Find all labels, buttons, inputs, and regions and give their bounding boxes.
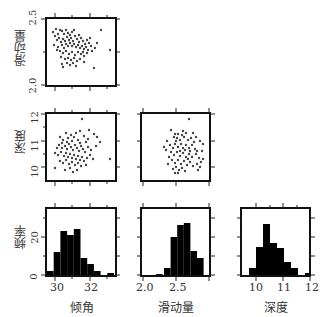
xtick-label: 2.5 (169, 281, 187, 294)
xtick-label: 11 (277, 281, 291, 294)
scatter-points-dip-depth (54, 118, 111, 173)
column-label-slip: 滑动量 (158, 298, 194, 315)
xtick-label: 2.0 (136, 281, 154, 294)
histogram-slip (156, 223, 204, 275)
xtick-label: 12 (305, 281, 319, 294)
scatter-matrix (0, 0, 326, 317)
xtick-label: 10 (249, 281, 263, 294)
histogram-depth (249, 224, 310, 275)
column-label-depth: 深度 (264, 298, 288, 315)
histogram-dip (47, 229, 114, 275)
xtick-label: 32 (84, 281, 98, 294)
scatter-points-slip-depth (163, 118, 204, 174)
xtick-label: 30 (50, 281, 64, 294)
column-label-dip: 倾角 (70, 298, 94, 315)
scatter-points-dip-slip (52, 28, 111, 69)
